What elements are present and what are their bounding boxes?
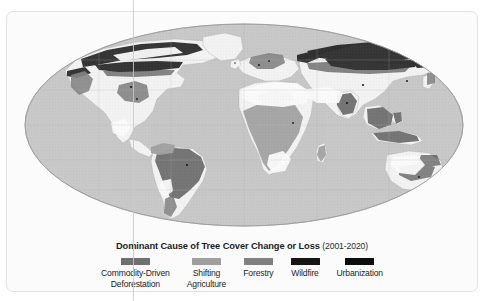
text-caret-guide-line bbox=[133, 0, 134, 301]
legend-item-wildfire[interactable]: Wildfire bbox=[291, 258, 320, 279]
legend-title: Dominant Cause of Tree Cover Change or L… bbox=[7, 241, 477, 251]
legend-swatch-commodity-driven-deforestation bbox=[121, 258, 150, 265]
map-container[interactable] bbox=[7, 15, 477, 237]
legend-label-commodity-driven-deforestation: Commodity-Driven Deforestation bbox=[101, 268, 170, 289]
legend-title-main: Dominant Cause of Tree Cover Change or L… bbox=[116, 241, 320, 251]
legend-item-shifting-agriculture[interactable]: Shifting Agriculture bbox=[187, 258, 226, 289]
legend-label-shifting-agriculture: Shifting Agriculture bbox=[187, 268, 226, 289]
land-new-zealand bbox=[449, 183, 463, 201]
legend-swatch-urbanization bbox=[345, 258, 374, 265]
legend-item-forestry[interactable]: Forestry bbox=[243, 258, 273, 279]
world-map-svg[interactable] bbox=[7, 15, 477, 237]
legend-item-commodity-driven-deforestation[interactable]: Commodity-Driven Deforestation bbox=[101, 258, 170, 289]
legend-label-urbanization: Urbanization bbox=[337, 268, 383, 279]
legend-title-years: (2001-2020) bbox=[322, 241, 368, 251]
legend-item-urbanization[interactable]: Urbanization bbox=[337, 258, 383, 279]
map-card: Dominant Cause of Tree Cover Change or L… bbox=[6, 11, 478, 292]
legend-label-forestry: Forestry bbox=[243, 268, 273, 279]
legend-swatch-wildfire bbox=[291, 258, 320, 265]
legend-swatch-shifting-agriculture bbox=[192, 258, 221, 265]
legend-swatch-forestry bbox=[244, 258, 273, 265]
legend-label-wildfire: Wildfire bbox=[291, 268, 318, 279]
legend-items: Commodity-Driven Deforestation Shifting … bbox=[7, 258, 477, 289]
map-legend: Dominant Cause of Tree Cover Change or L… bbox=[7, 241, 477, 289]
